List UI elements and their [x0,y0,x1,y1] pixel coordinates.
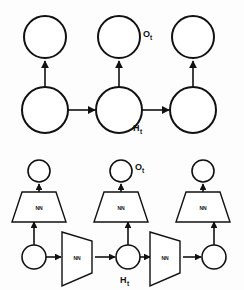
hidden-node [170,87,216,133]
hidden-node-small [22,245,46,269]
top-diagram: O t H t [22,16,216,135]
output-label-bottom: O [135,162,142,172]
output-node [98,16,140,58]
output-label-top: O [143,29,150,39]
output-label-top-subscript: t [150,34,153,41]
nn-block-recurrent-label: NN [161,255,169,261]
bottom-diagram: NN NN NN NN NN O t H t [12,160,230,287]
output-node-small [28,160,50,182]
nn-block-output-label: NN [117,205,125,211]
nn-block-recurrent-label: NN [73,255,81,261]
hidden-label-bottom: H [120,275,127,285]
hidden-node [22,87,68,133]
hidden-node-small [202,245,226,269]
output-node-small [110,160,132,182]
output-node [24,16,66,58]
hidden-label-top-subscript: t [140,128,143,135]
rnn-diagram: O t H t [0,0,244,290]
figure-canvas: O t H t [0,0,244,290]
nn-block-output-label: NN [35,205,43,211]
output-node [172,16,214,58]
hidden-label-bottom-subscript: t [127,280,130,287]
output-node-small [192,160,214,182]
nn-block-output-label: NN [199,205,207,211]
hidden-label-top: H [133,123,140,133]
output-label-bottom-subscript: t [142,167,145,174]
hidden-node-small [116,245,140,269]
